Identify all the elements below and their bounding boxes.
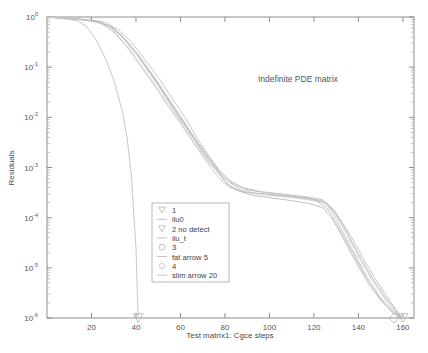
y-tick-label: 10-1: [24, 61, 38, 72]
y-tick-label: 100: [26, 11, 38, 22]
y-tick-label: 10-4: [24, 212, 38, 223]
x-axis-title: Test matrix1: Cgce steps: [186, 331, 274, 340]
legend-label-ilu-t[interactable]: ilu_t: [172, 234, 187, 243]
legend-label-fat-arrow-5[interactable]: fat arrow 5: [172, 253, 208, 262]
chart-root: 10010-110-210-310-410-510-6 204060801001…: [0, 0, 428, 353]
legend-label-4[interactable]: 4: [172, 262, 176, 271]
plot-frame: [47, 17, 414, 318]
x-tick-label: 140: [352, 323, 366, 332]
y-tick-label: 10-5: [24, 262, 38, 273]
legend-label-1[interactable]: 1: [172, 206, 176, 215]
legend-label-3[interactable]: 3: [172, 243, 176, 252]
x-tick-label: 40: [132, 323, 141, 332]
y-axis-title: Residuals: [7, 150, 16, 185]
x-tick-label: 160: [396, 323, 410, 332]
legend[interactable]: 1ilu02 no detectilu_t3fat arrow 54slim a…: [152, 203, 229, 282]
y-tick-label: 10-3: [24, 162, 38, 173]
legend-label-slim-arrow-20[interactable]: slim arrow 20: [172, 271, 217, 280]
legend-label-2-no-detect[interactable]: 2 no detect: [172, 225, 210, 234]
y-tick-label: 10-2: [24, 111, 38, 122]
x-tick-label: 120: [307, 323, 321, 332]
chart-annotation: Indefinite PDE matrix: [258, 74, 339, 84]
residuals-convergence-chart: 10010-110-210-310-410-510-6 204060801001…: [0, 0, 428, 353]
axes-box: [47, 17, 414, 318]
x-tick-label: 60: [176, 323, 185, 332]
x-tick-label: 20: [87, 323, 96, 332]
y-tick-label: 10-6: [24, 312, 38, 323]
legend-label-ilu0[interactable]: ilu0: [172, 215, 184, 224]
